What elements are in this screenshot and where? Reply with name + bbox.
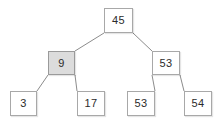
tree-node-left[interactable]: 9 (48, 51, 75, 75)
tree-node-label: 9 (58, 58, 64, 69)
tree-edge (152, 75, 155, 91)
tree-node-label: 53 (160, 58, 173, 69)
tree-edge (133, 33, 152, 51)
tree-node-label: 3 (20, 98, 26, 109)
tree-node-right-right[interactable]: 54 (184, 91, 212, 116)
tree-node-root[interactable]: 45 (104, 8, 133, 33)
tree-node-label: 53 (135, 98, 148, 109)
tree-edge (180, 75, 184, 91)
tree-edge (75, 33, 104, 51)
tree-node-label: 17 (85, 98, 98, 109)
tree-edge (37, 75, 48, 91)
binary-tree-diagram: 459533175354 (0, 0, 222, 125)
tree-node-label: 45 (112, 15, 125, 26)
tree-node-label: 54 (192, 98, 205, 109)
tree-node-right-left[interactable]: 53 (127, 91, 155, 116)
tree-node-right[interactable]: 53 (152, 51, 180, 75)
tree-node-left-right[interactable]: 17 (77, 91, 105, 116)
tree-edge (75, 75, 77, 91)
tree-node-left-left[interactable]: 3 (10, 91, 37, 116)
